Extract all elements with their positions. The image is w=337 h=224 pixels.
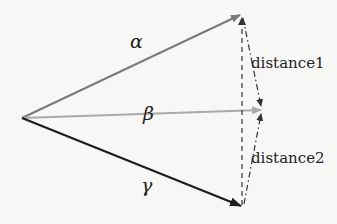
beta-label: β	[143, 104, 154, 123]
diagram-svg	[0, 0, 337, 224]
gamma-label: γ	[141, 176, 152, 195]
alpha-label: α	[130, 32, 143, 51]
vector-gamma-arrow	[22, 118, 241, 206]
distance2-label: distance2	[251, 151, 325, 166]
vector-beta-arrow	[22, 110, 261, 118]
distance1-label: distance1	[251, 56, 325, 71]
vector-diagram: α β γ distance1 distance2	[0, 0, 337, 224]
